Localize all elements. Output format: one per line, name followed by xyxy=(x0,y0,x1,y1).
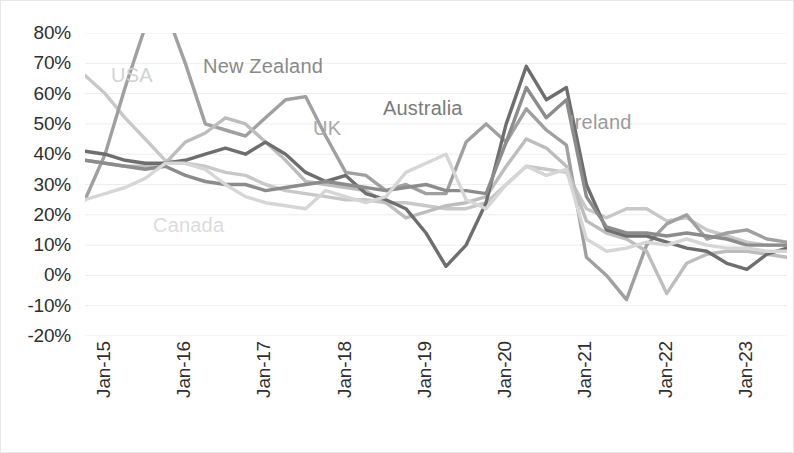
plot-area xyxy=(85,33,787,336)
y-axis-tick: 40% xyxy=(34,143,71,165)
x-axis-tick: Jan-21 xyxy=(574,341,596,398)
x-axis-tick: Jan-16 xyxy=(173,341,195,398)
y-axis-tick: 10% xyxy=(34,234,71,256)
y-axis-labels: 80%70%60%50%40%30%20%10%0%-10%-20% xyxy=(1,33,77,336)
y-axis-tick: 20% xyxy=(34,204,71,226)
x-axis-labels: Jan-15Jan-16Jan-17Jan-18Jan-19Jan-20Jan-… xyxy=(85,339,787,439)
y-axis-tick: 50% xyxy=(34,113,71,135)
y-axis-tick: 30% xyxy=(34,174,71,196)
y-axis-tick: 70% xyxy=(34,52,71,74)
y-axis-tick: -10% xyxy=(27,295,71,317)
x-axis-tick: Jan-18 xyxy=(334,341,356,398)
y-axis-tick: 60% xyxy=(34,83,71,105)
y-axis-tick: -20% xyxy=(27,325,71,347)
series-line xyxy=(85,154,787,251)
x-axis-tick: Jan-19 xyxy=(414,341,436,398)
x-axis-tick: Jan-22 xyxy=(655,341,677,398)
x-axis-tick: Jan-15 xyxy=(93,341,115,398)
line-chart-svg xyxy=(85,33,787,336)
x-axis-tick: Jan-20 xyxy=(494,341,516,398)
series-lines xyxy=(85,33,787,300)
y-axis-tick: 0% xyxy=(44,264,71,286)
x-axis-tick: Jan-17 xyxy=(253,341,275,398)
y-axis-tick: 80% xyxy=(34,22,71,44)
x-axis-tick: Jan-23 xyxy=(735,341,757,398)
chart-container: 80%70%60%50%40%30%20%10%0%-10%-20% USANe… xyxy=(0,0,794,453)
